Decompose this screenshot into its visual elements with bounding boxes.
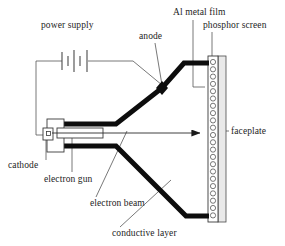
phosphor-screen-band bbox=[208, 56, 218, 222]
leader-anode bbox=[155, 43, 162, 85]
label-phosphor-screen: phosphor screen bbox=[203, 20, 267, 30]
label-faceplate: faceplate bbox=[231, 126, 266, 136]
power-supply-battery bbox=[62, 50, 87, 72]
label-anode: anode bbox=[139, 31, 162, 41]
leader-al-metal-film bbox=[193, 20, 205, 87]
label-cathode: cathode bbox=[8, 160, 38, 170]
label-electron-gun: electron gun bbox=[44, 174, 93, 184]
crt-diagram: power supply anode Al metal film phospho… bbox=[0, 0, 285, 246]
wire-cathode-branch bbox=[36, 61, 47, 135]
label-electron-beam: electron beam bbox=[90, 198, 145, 208]
leader-electron-beam bbox=[96, 131, 127, 197]
label-power-supply: power supply bbox=[41, 20, 94, 30]
crt-diagram-canvas: power supply anode Al metal film phospho… bbox=[0, 0, 285, 246]
label-conductive-layer: conductive layer bbox=[112, 228, 177, 238]
faceplate-band bbox=[218, 56, 226, 222]
label-al-metal-film: Al metal film bbox=[173, 7, 226, 17]
tube-envelope-upper bbox=[48, 63, 209, 124]
wire-battery-to-anode bbox=[88, 61, 162, 85]
